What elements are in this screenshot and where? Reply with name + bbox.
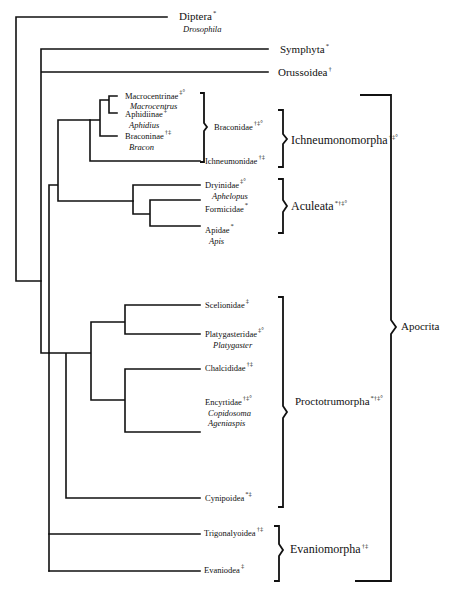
branch-proctotrupomorpha: [49, 305, 200, 498]
brace-ichneumonomorpha: [278, 110, 287, 167]
leaf-orussoidea: Orussoidea†: [278, 67, 332, 78]
brace-aculeata: [278, 179, 287, 233]
genus-platygaster: Platygaster: [213, 341, 252, 350]
genus-copidosoma: Copidosoma: [208, 409, 251, 418]
mark-superscript: ‡: [241, 562, 244, 569]
leaf-apidae: Apidae*: [205, 226, 234, 235]
leaf-dryinidae: Dryinidae‡°: [205, 181, 246, 190]
mark-superscript: †‡°: [389, 133, 398, 140]
leaf-aphidiinae: Aphidiinae‡: [125, 110, 167, 119]
group-evaniomorpha: Evaniomorpha†‡: [290, 543, 368, 555]
genus-drosophila: Drosophila: [183, 25, 221, 34]
mark-superscript: *†‡°: [371, 394, 383, 401]
branch-aculeata: [133, 185, 200, 226]
genus-aphelopus: Aphelopus: [212, 192, 248, 201]
leaf-platygasteridae: Platygasteridae‡°: [205, 330, 264, 339]
group-apocrita: Apocrita: [401, 321, 439, 332]
mark-superscript: †‡: [257, 525, 264, 532]
mark-superscript: †‡: [362, 542, 369, 549]
leaf-scelionidae: Scelionidae‡: [205, 301, 249, 310]
mark-superscript: *: [231, 222, 234, 229]
leaf-encyrtidae: Encyrtidae†‡°: [205, 398, 252, 407]
group-ichneumonomorpha: Ichneumonomorpha†‡°: [291, 134, 398, 146]
mark-superscript: ‡°: [258, 326, 264, 333]
mark-superscript: *: [245, 201, 248, 208]
mark-superscript: ‡: [164, 106, 167, 113]
leaf-chalcididae: Chalcididae†‡: [205, 364, 253, 373]
leaf-braconinae: Braconinae†‡: [125, 132, 171, 141]
genus-apis: Apis: [209, 237, 224, 246]
branch-evaniomorpha: [49, 534, 200, 571]
brace-apocrita: [355, 95, 396, 581]
group-braconidae: Braconidae†‡°: [214, 123, 263, 132]
genus-ageniaspis: Ageniaspis: [208, 419, 245, 428]
mark-superscript: †‡°: [254, 119, 263, 126]
leaf-diptera: Diptera*: [179, 11, 216, 22]
mark-superscript: †‡: [165, 128, 172, 135]
leaf-cynipoidea: Cynipoidea*‡: [205, 494, 252, 503]
mark-superscript: *: [213, 9, 216, 16]
genus-aphidius: Aphidius: [129, 121, 159, 130]
brace-evaniomorpha: [274, 526, 283, 581]
genus-bracon: Bracon: [129, 143, 154, 152]
mark-superscript: †: [329, 65, 332, 72]
group-proctotrupomorpha: Proctotrumorpha*†‡°: [295, 396, 383, 407]
mark-superscript: *†‡°: [335, 199, 347, 206]
group-aculeata: Aculeata*†‡°: [291, 200, 347, 212]
mark-superscript: ‡: [246, 297, 249, 304]
leaf-ichneumonidae: Ichneumonidae†‡: [205, 157, 265, 166]
leaf-evaniodea: Evaniodea‡: [204, 566, 244, 575]
mark-superscript: †‡: [258, 153, 265, 160]
mark-superscript: †‡°: [243, 394, 252, 401]
leaf-symphyta: Symphyta*: [280, 44, 329, 55]
mark-superscript: ‡°: [240, 177, 246, 184]
brace-proctotrupomorpha: [278, 297, 287, 507]
leaf-formicidae: Formicidae*: [205, 205, 248, 214]
mark-superscript: *: [326, 42, 329, 49]
brace-braconidae: [200, 93, 207, 162]
phylogenetic-tree: [0, 0, 449, 592]
leaf-macrocentrinae: Macrocentrinae‡°: [125, 92, 185, 101]
leaf-trigonalyoidea: Trigonalyoidea†‡: [204, 529, 263, 538]
mark-superscript: *‡: [245, 490, 252, 497]
mark-superscript: †‡: [247, 360, 254, 367]
mark-superscript: ‡°: [179, 88, 185, 95]
